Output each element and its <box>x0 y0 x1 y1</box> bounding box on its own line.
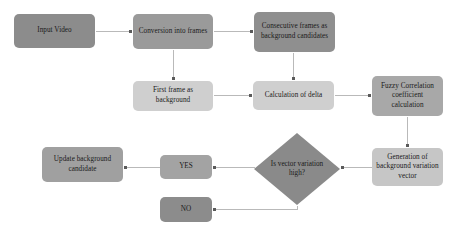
arrowhead-yes <box>213 166 216 169</box>
node-conversion-into-frames-label: Conversion into frames <box>136 27 210 37</box>
edge-decision-to-no <box>215 206 298 210</box>
node-yes-branch-label: YES <box>163 162 209 172</box>
node-decision-label: Is vector variation high? <box>269 160 324 179</box>
flowchart-canvas: Input Video Conversion into frames Conse… <box>0 0 458 233</box>
node-first-frame-background-label: First frame as background <box>136 86 210 105</box>
arrowhead-decision-right <box>341 166 344 169</box>
node-update-background-candidate[interactable]: Update background candidate <box>42 147 123 182</box>
node-fuzzy-correlation[interactable]: Fuzzy Correlation coefficient calculatio… <box>372 76 443 116</box>
node-generation-variation-vector-label: Generation of background variation vecto… <box>375 153 440 182</box>
node-calculation-of-delta-label: Calculation of delta <box>256 91 331 101</box>
node-generation-variation-vector[interactable]: Generation of background variation vecto… <box>372 148 443 186</box>
arrowhead-update <box>124 166 127 169</box>
node-input-video-label: Input Video <box>17 26 92 36</box>
arrowhead-delta-left <box>249 94 252 97</box>
node-consecutive-frames[interactable]: Consecutive frames as background candida… <box>254 12 335 52</box>
node-decision-is-vector-variation-high[interactable]: Is vector variation high? <box>254 133 340 205</box>
node-input-video[interactable]: Input Video <box>14 14 95 48</box>
node-update-background-candidate-label: Update background candidate <box>45 155 120 174</box>
node-consecutive-frames-label: Consecutive frames as background candida… <box>257 22 332 41</box>
arrowhead-no <box>213 208 216 211</box>
node-fuzzy-correlation-label: Fuzzy Correlation coefficient calculatio… <box>375 82 440 111</box>
arrowhead-delta-top <box>292 77 295 80</box>
node-no-branch-label: NO <box>163 205 209 215</box>
arrowhead-consecutive <box>250 30 253 33</box>
arrowhead-generation <box>406 144 409 147</box>
arrowhead-conversion <box>129 30 132 33</box>
node-conversion-into-frames[interactable]: Conversion into frames <box>133 14 213 49</box>
node-calculation-of-delta[interactable]: Calculation of delta <box>253 81 334 110</box>
arrowhead-fuzzy <box>368 94 371 97</box>
node-yes-branch[interactable]: YES <box>160 155 212 179</box>
node-no-branch[interactable]: NO <box>160 197 212 222</box>
arrowhead-firstframe <box>172 77 175 80</box>
node-first-frame-background[interactable]: First frame as background <box>133 81 213 111</box>
